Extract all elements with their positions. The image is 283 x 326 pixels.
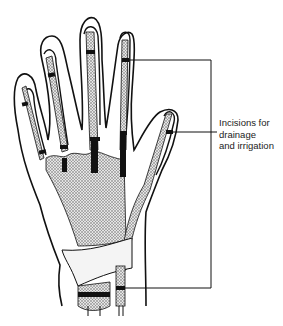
annotation-label: Incisions for drainage and irrigation <box>219 117 274 152</box>
hand-illustration <box>0 0 283 326</box>
annotation-line-2: drainage <box>219 129 274 141</box>
annotation-line-3: and irrigation <box>219 140 274 152</box>
annotation-bracket <box>125 60 217 288</box>
annotation-line-1: Incisions for <box>219 117 274 129</box>
palm-gauze <box>46 152 126 246</box>
